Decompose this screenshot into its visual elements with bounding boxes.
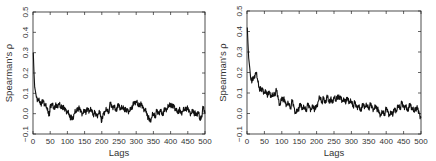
x-tick-label: 500 — [414, 137, 428, 146]
series-line-left — [33, 53, 205, 123]
x-tick-label: 100 — [61, 137, 75, 146]
x-axis-label: Lags — [324, 147, 345, 158]
y-tick-label: 0.2 — [21, 67, 30, 79]
y-tick-label: 0.2 — [235, 66, 244, 78]
x-tick-label: 350 — [362, 137, 376, 146]
y-tick-label: −0.1 — [235, 126, 244, 142]
y-axis-label: Spearman's ρ — [3, 43, 14, 102]
x-tick-label: 200 — [95, 137, 109, 146]
x-tick-label: 150 — [293, 137, 307, 146]
y-tick-label: 0.0 — [235, 107, 244, 119]
plot-frame — [33, 12, 205, 134]
y-tick-label: 0.3 — [21, 47, 30, 59]
y-tick-label: 0.5 — [235, 5, 244, 17]
y-tick-label: 0.0 — [21, 108, 30, 120]
x-tick-label: 0 — [245, 137, 250, 146]
chart-panel-right: 050100150200250300350400450500−0.10.00.1… — [217, 5, 428, 158]
x-tick-label: 0 — [31, 137, 36, 146]
y-tick-label: 0.1 — [21, 87, 30, 99]
x-tick-label: 300 — [345, 137, 359, 146]
x-tick-label: 300 — [130, 137, 144, 146]
x-tick-label: 450 — [397, 137, 411, 146]
plot-frame — [247, 11, 421, 134]
y-axis-label: Spearman's ρ — [217, 43, 228, 102]
x-axis-label: Lags — [109, 147, 130, 158]
x-tick-label: 100 — [275, 137, 289, 146]
y-tick-label: 0.1 — [235, 87, 244, 99]
x-tick-label: 450 — [181, 137, 195, 146]
x-tick-label: 250 — [327, 137, 341, 146]
x-tick-label: 50 — [46, 137, 55, 146]
chart-figure: 050100150200250300350400450500−0.10.00.1… — [0, 0, 436, 161]
x-tick-label: 150 — [78, 137, 92, 146]
x-tick-label: 50 — [260, 137, 269, 146]
y-tick-label: 0.4 — [235, 25, 244, 37]
x-tick-label: 400 — [164, 137, 178, 146]
x-tick-label: 250 — [112, 137, 126, 146]
y-tick-label: 0.4 — [21, 26, 30, 38]
chart-panel-left: 050100150200250300350400450500−0.10.00.1… — [3, 6, 212, 158]
y-tick-label: 0.5 — [21, 6, 30, 18]
y-tick-label: 0.3 — [235, 46, 244, 58]
x-tick-label: 400 — [380, 137, 394, 146]
y-tick-label: −0.1 — [21, 126, 30, 142]
x-tick-label: 350 — [147, 137, 161, 146]
x-tick-label: 200 — [310, 137, 324, 146]
x-tick-label: 500 — [198, 137, 212, 146]
series-line-right — [247, 27, 421, 118]
